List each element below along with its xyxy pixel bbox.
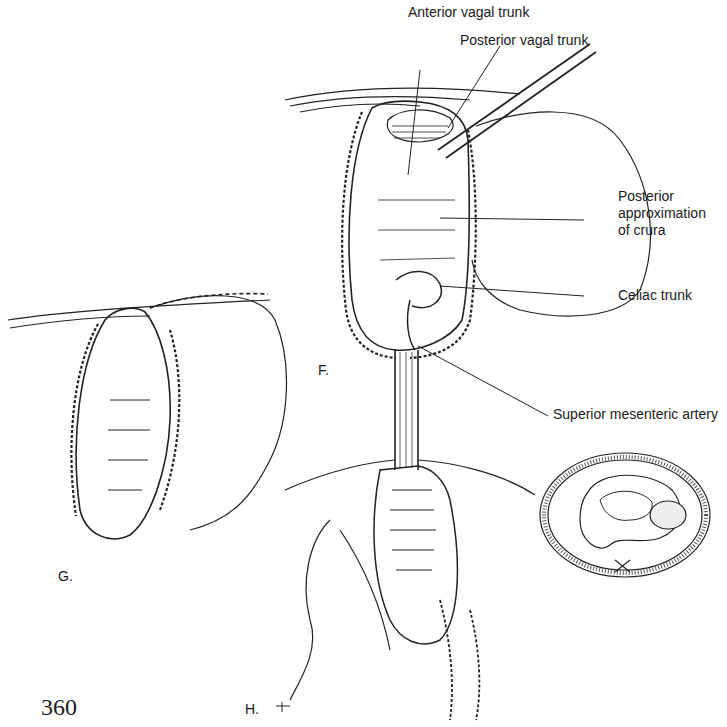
panel-label-f: F. bbox=[318, 362, 329, 378]
figure-page: Anterior vagal trunk Posterior vagal tru… bbox=[0, 0, 727, 727]
callout-posterior-approximation-line1: Posterior bbox=[618, 188, 674, 205]
surgical-illustration bbox=[0, 0, 727, 727]
panel-g-drawing bbox=[8, 294, 286, 539]
panel-f-drawing bbox=[285, 44, 650, 416]
callout-celiac-trunk: Celiac trunk bbox=[618, 287, 692, 304]
callout-posterior-vagal-trunk: Posterior vagal trunk bbox=[460, 32, 588, 49]
page-number: 360 bbox=[41, 694, 77, 721]
callout-superior-mesenteric-artery: Superior mesenteric artery bbox=[553, 406, 718, 423]
cross-section-diagram bbox=[540, 453, 710, 577]
panel-label-g: G. bbox=[58, 568, 73, 584]
callout-anterior-vagal-trunk: Anterior vagal trunk bbox=[408, 4, 529, 21]
panel-label-h: H. bbox=[245, 701, 259, 717]
callout-posterior-approximation-line3: of crura bbox=[618, 222, 665, 239]
panel-h-drawing bbox=[276, 350, 535, 720]
callout-posterior-approximation-line2: approximation bbox=[618, 205, 706, 222]
